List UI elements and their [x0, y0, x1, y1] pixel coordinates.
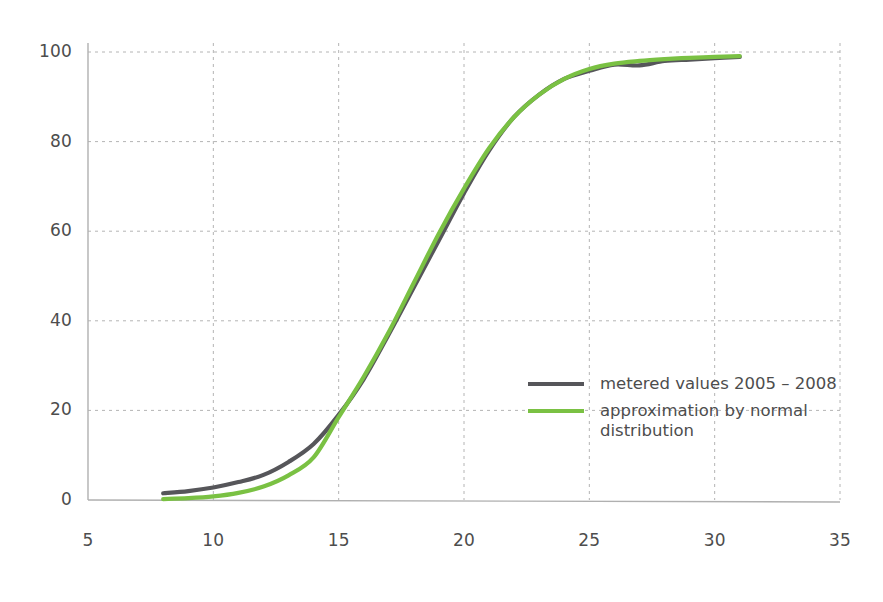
- chart-container: 100806040200 5101520253035 metered value…: [0, 0, 883, 602]
- x-tick-label: 20: [434, 530, 494, 550]
- chart-legend: metered values 2005 – 2008approximation …: [528, 374, 837, 448]
- x-tick-label: 35: [810, 530, 870, 550]
- x-tick-label: 15: [309, 530, 369, 550]
- x-tick-label: 30: [685, 530, 745, 550]
- legend-swatch-line-icon: [528, 382, 584, 386]
- y-tick-label: 80: [12, 131, 72, 151]
- x-tick-label: 10: [183, 530, 243, 550]
- y-tick-label: 20: [12, 399, 72, 419]
- legend-swatch-line-icon: [528, 409, 584, 413]
- x-tick-label: 5: [58, 530, 118, 550]
- legend-item: approximation by normal distribution: [528, 401, 837, 440]
- x-axis-line: [88, 500, 840, 502]
- y-tick-label: 100: [12, 41, 72, 61]
- x-tick-label: 25: [559, 530, 619, 550]
- y-tick-label: 60: [12, 220, 72, 240]
- plot-area: [0, 0, 883, 602]
- y-tick-label: 40: [12, 310, 72, 330]
- legend-label: approximation by normal distribution: [600, 401, 808, 440]
- y-tick-label: 0: [12, 489, 72, 509]
- legend-item: metered values 2005 – 2008: [528, 374, 837, 393]
- legend-label: metered values 2005 – 2008: [600, 374, 837, 393]
